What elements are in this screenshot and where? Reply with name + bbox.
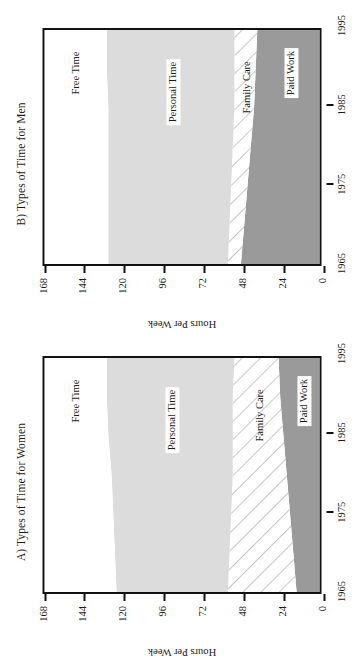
x-axis-tick-label: 1975 (335, 492, 346, 532)
y-axis-tick-label: 72 (196, 278, 207, 312)
x-axis-tick-label: 1995 (335, 6, 346, 46)
panel-title-men: B) Types of Time for Men (14, 0, 26, 328)
band-label-paid-work: Paid Work (297, 376, 311, 426)
x-axis-tick-label: 1995 (335, 334, 346, 374)
panel-title-women: A) Types of Time for Women (14, 328, 26, 656)
band-label-personal-time: Personal Time (165, 387, 179, 453)
x-axis-tick-label: 1965 (335, 572, 346, 612)
y-axis-tick-label: 144 (76, 606, 87, 640)
y-axis-tick-label: 144 (76, 278, 87, 312)
y-axis-tick-label: 120 (116, 278, 127, 312)
panel-women: A) Types of Time for Women 0244872961201… (0, 328, 359, 656)
y-axis-tick-label: 168 (37, 606, 48, 640)
x-axis-tick-label: 1985 (335, 85, 346, 125)
band-label-free-time: Free Time (69, 377, 83, 426)
y-axis-tick (243, 266, 245, 273)
y-axis-tick-label: 48 (236, 278, 247, 312)
plot-area-women (42, 356, 321, 594)
y-axis-tick (83, 594, 85, 601)
band-label-family-care: Family Care (240, 58, 254, 116)
y-axis-title: Hours Per Week (122, 319, 242, 330)
y-axis-tick-label: 96 (156, 606, 167, 640)
x-axis-tick (326, 183, 333, 185)
x-axis-tick (326, 511, 333, 513)
y-axis-tick (123, 594, 125, 601)
rotated-figure-wrapper: A) Types of Time for Women 0244872961201… (0, 0, 359, 656)
band-label-free-time: Free Time (69, 49, 83, 98)
y-axis-tick (123, 266, 125, 273)
figure: A) Types of Time for Women 0244872961201… (0, 0, 359, 656)
y-axis-tick (283, 266, 285, 273)
panel-men: B) Types of Time for Men 024487296120144… (0, 0, 359, 328)
x-axis-tick (326, 104, 333, 106)
band-label-family-care: Family Care (253, 386, 267, 444)
y-axis-tick-label: 72 (196, 606, 207, 640)
y-axis-tick-label: 24 (276, 278, 287, 312)
band-label-personal-time: Personal Time (166, 59, 180, 125)
y-axis-tick (83, 266, 85, 273)
stacked-area-chart-women (44, 358, 319, 592)
x-axis-tick-label: 1985 (335, 413, 346, 453)
y-axis-tick (44, 266, 46, 273)
y-axis-tick (323, 594, 325, 601)
y-axis-tick (44, 594, 46, 601)
y-axis-tick (203, 266, 205, 273)
x-axis-tick-label: 1965 (335, 244, 346, 284)
y-axis-tick-label: 48 (236, 606, 247, 640)
y-axis-tick (243, 594, 245, 601)
y-axis-tick-label: 168 (37, 278, 48, 312)
y-axis-tick (323, 266, 325, 273)
y-axis-tick-label: 0 (316, 606, 327, 640)
y-axis-tick (203, 594, 205, 601)
band-label-paid-work: Paid Work (284, 48, 298, 98)
x-axis-tick (326, 432, 333, 434)
x-axis-tick-label: 1975 (335, 164, 346, 204)
y-axis-tick (163, 594, 165, 601)
y-axis-tick (283, 594, 285, 601)
y-axis-tick (163, 266, 165, 273)
y-axis-title: Hours Per Week (122, 647, 242, 656)
y-axis-tick-label: 24 (276, 606, 287, 640)
stacked-area-chart-men (44, 30, 319, 264)
y-axis-tick-label: 96 (156, 278, 167, 312)
y-axis-tick-label: 120 (116, 606, 127, 640)
plot-area-men (42, 28, 321, 266)
y-axis-tick-label: 0 (316, 278, 327, 312)
